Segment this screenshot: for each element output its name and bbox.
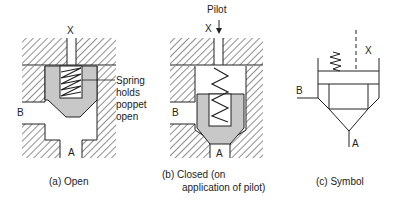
port-label-a: A — [352, 138, 359, 149]
spring-symbol — [330, 52, 341, 71]
annotation-line-1: Spring — [116, 75, 145, 86]
port-label-a: A — [68, 147, 75, 158]
caption-b-line-2: application of pilot) — [182, 182, 265, 193]
valve-body-top — [170, 38, 263, 65]
caption-b-line-1: (b) Closed (on — [162, 169, 225, 180]
figure-a-open: X B A Spring holds poppet open (a) Open — [17, 25, 147, 187]
port-label-x: X — [365, 45, 372, 56]
annotation-line-3: poppet — [116, 99, 147, 110]
caption-a: (a) Open — [49, 176, 88, 187]
port-label-x: X — [67, 25, 74, 36]
valve-symbol — [297, 58, 379, 147]
annotation-line-4: open — [116, 111, 138, 122]
port-label-x: X — [205, 23, 212, 34]
annotation-line-2: holds — [116, 87, 140, 98]
figure-b-closed: Pilot X B A (b) Closed (on application o… — [162, 4, 265, 193]
caption-c: (c) Symbol — [316, 176, 364, 187]
pilot-label: Pilot — [207, 4, 227, 15]
valve-diagram: X B A Spring holds poppet open (a) Open — [0, 0, 397, 203]
figure-c-symbol: X B A (c) Symbol — [296, 30, 379, 187]
port-label-b: B — [296, 85, 303, 96]
port-label-a: A — [216, 148, 223, 159]
port-label-b: B — [172, 107, 179, 118]
pilot-arrow — [216, 20, 222, 34]
port-label-b: B — [17, 107, 24, 118]
valve-body-top — [22, 38, 116, 65]
